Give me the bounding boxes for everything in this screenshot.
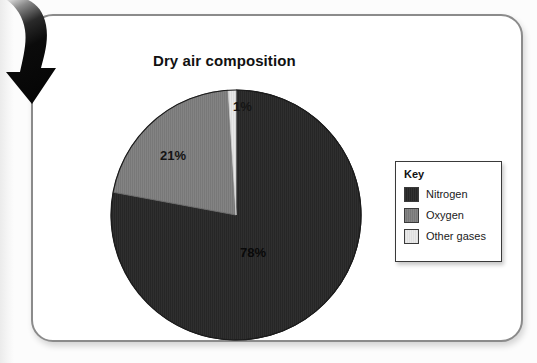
legend-item-nitrogen: Nitrogen — [404, 184, 501, 205]
pie-label-other-gases: 1% — [233, 99, 252, 114]
chart-title: Dry air composition — [153, 52, 296, 69]
chart-legend: Key Nitrogen Oxygen Other gases — [395, 161, 502, 262]
legend-item-oxygen: Oxygen — [404, 205, 501, 226]
page-edge-shading — [0, 0, 14, 363]
legend-label-other-gases: Other gases — [426, 230, 486, 243]
slide-page: Dry air composition — [0, 0, 537, 363]
legend-swatch-oxygen — [404, 208, 419, 223]
content-card: Dry air composition — [31, 14, 523, 342]
pie-chart-svg — [109, 88, 363, 342]
pie-label-nitrogen: 78% — [240, 245, 266, 260]
legend-item-other-gases: Other gases — [404, 226, 501, 247]
legend-swatch-nitrogen — [404, 187, 419, 202]
legend-swatch-other-gases — [404, 229, 419, 244]
legend-title: Key — [404, 168, 501, 181]
legend-label-oxygen: Oxygen — [426, 209, 464, 222]
pie-label-oxygen: 21% — [160, 148, 186, 163]
pie-chart: 1% 21% 78% — [109, 88, 363, 342]
legend-label-nitrogen: Nitrogen — [426, 188, 468, 201]
